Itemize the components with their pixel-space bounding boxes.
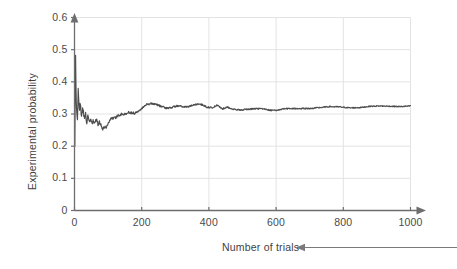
data-series-line <box>75 55 411 146</box>
x-tick-label: 800 <box>334 216 352 228</box>
y-tick-label: 0.4 <box>52 75 67 87</box>
x-tick-label: 0 <box>71 216 77 228</box>
y-tick-label: 0.2 <box>52 139 67 151</box>
y-tick-label: 0.5 <box>52 43 67 55</box>
y-tick-label: 0.6 <box>52 11 67 23</box>
chart-canvas <box>0 0 457 269</box>
x-tick-label: 400 <box>200 216 218 228</box>
experimental-probability-chart: 00.10.20.30.40.50.6 02004006008001000 Ex… <box>0 0 457 269</box>
y-tick-label: 0.3 <box>52 107 67 119</box>
x-tick-label: 1000 <box>398 216 422 228</box>
y-tick-label: 0.1 <box>52 171 67 183</box>
experimental-probability-line <box>75 55 411 146</box>
y-axis-label: Experimental probability <box>26 73 38 190</box>
x-axis-label: Number of trials <box>222 241 299 253</box>
x-tick-label: 200 <box>133 216 151 228</box>
annotation-arrow <box>296 244 457 251</box>
x-axis-arrowhead <box>417 207 427 215</box>
y-tick-label: 0 <box>61 204 67 216</box>
x-tick-label: 600 <box>267 216 285 228</box>
